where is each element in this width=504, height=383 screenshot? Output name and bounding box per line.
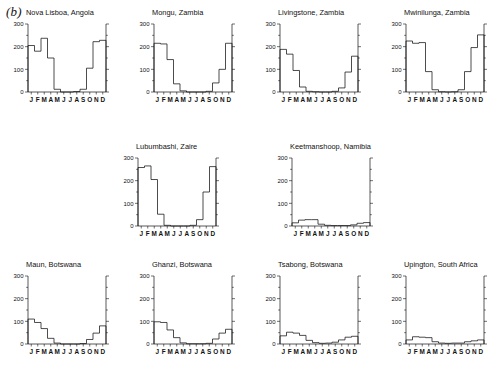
month-tick-label: A [174, 96, 179, 103]
month-tick-label: J [188, 96, 192, 103]
month-tick-label: A [326, 96, 331, 103]
y-axis-tick-label: 100 [391, 67, 402, 73]
chart-plot-area: 0100200300JFMAMJJASOND [2, 18, 114, 110]
rainfall-step-series [292, 220, 370, 226]
rainfall-step-series [138, 166, 216, 226]
month-tick-label: S [459, 348, 464, 355]
y-axis-tick-label: 300 [13, 273, 24, 279]
month-tick-label: J [62, 348, 66, 355]
month-tick-label: A [452, 348, 457, 355]
climatograph-svg: 0100200300JFMAMJJASOND [266, 152, 378, 244]
chart-plot-area: 0100200300JFMAMJJASOND [380, 18, 492, 110]
month-tick-label: J [188, 348, 192, 355]
month-tick-label: J [68, 96, 72, 103]
month-tick-label: D [100, 348, 105, 355]
chart-title: Livingstone, Zambia [278, 8, 378, 17]
month-tick-label: F [36, 96, 40, 103]
y-axis-tick-label: 100 [123, 201, 134, 207]
rainfall-step-series [154, 322, 232, 344]
chart-row-2: Lubumbashi, Zaire 0100200300JFMAMJJASOND… [110, 142, 504, 244]
y-axis-tick-label: 300 [123, 155, 134, 161]
y-axis-tick-label: 300 [391, 21, 402, 27]
y-axis-tick-label: 100 [139, 67, 150, 73]
month-tick-label: S [333, 348, 338, 355]
month-tick-label: J [332, 230, 336, 237]
y-axis-tick-label: 300 [265, 21, 276, 27]
y-axis-tick-label: 100 [139, 319, 150, 325]
month-tick-label: J [407, 348, 411, 355]
chart-panel: Nova Lisboa, Angola 0100200300JFMAMJJASO… [0, 8, 126, 110]
climatograph-svg: 0100200300JFMAMJJASOND [254, 270, 366, 362]
month-tick-label: A [200, 348, 205, 355]
month-tick-label: J [62, 96, 66, 103]
month-tick-label: J [320, 348, 324, 355]
chart-title: Mwinilunga, Zambia [404, 8, 504, 17]
month-tick-label: N [358, 230, 363, 237]
month-tick-label: J [440, 96, 444, 103]
month-tick-label: J [178, 230, 182, 237]
month-tick-label: M [319, 230, 324, 237]
climatograph-svg: 0100200300JFMAMJJASOND [380, 18, 492, 110]
month-tick-label: F [162, 348, 166, 355]
chart-title: Keetmanshoop, Namibia [290, 142, 390, 151]
chart-panel: Mwinilunga, Zambia 0100200300JFMAMJJASON… [378, 8, 504, 110]
month-tick-label: O [213, 348, 218, 355]
month-tick-label: A [48, 348, 53, 355]
chart-panel: Maun, Botswana 0100200300JFMAMJJASOND [0, 260, 126, 362]
month-tick-label: J [139, 230, 143, 237]
month-tick-label: F [414, 96, 418, 103]
month-tick-label: N [220, 348, 225, 355]
y-axis-tick-label: 200 [123, 178, 134, 184]
month-tick-label: A [300, 348, 305, 355]
y-axis-tick-label: 300 [391, 273, 402, 279]
climatograph-svg: 0100200300JFMAMJJASOND [2, 270, 114, 362]
y-axis-tick-label: 200 [13, 44, 24, 50]
chart-panel: Livingstone, Zambia 0100200300JFMAMJJASO… [252, 8, 378, 110]
y-axis-tick-label: 0 [272, 89, 276, 95]
month-tick-label: J [407, 96, 411, 103]
chart-plot-area: 0100200300JFMAMJJASOND [266, 152, 378, 244]
chart-panel: Upington, South Africa 0100200300JFMAMJJ… [378, 260, 504, 362]
month-tick-label: S [459, 96, 464, 103]
month-tick-label: M [307, 96, 312, 103]
chart-plot-area: 0100200300JFMAMJJASOND [128, 270, 240, 362]
month-tick-label: J [440, 348, 444, 355]
month-tick-label: A [174, 348, 179, 355]
y-axis-tick-label: 200 [13, 296, 24, 302]
month-tick-label: D [210, 230, 215, 237]
month-tick-label: S [207, 96, 212, 103]
month-tick-label: A [74, 96, 79, 103]
y-axis-tick-label: 0 [272, 341, 276, 347]
month-tick-label: J [314, 96, 318, 103]
month-tick-label: M [55, 348, 60, 355]
month-tick-label: J [320, 96, 324, 103]
y-axis-tick-label: 200 [265, 44, 276, 50]
month-tick-label: O [213, 96, 218, 103]
month-tick-label: M [294, 96, 299, 103]
month-tick-label: D [100, 96, 105, 103]
month-tick-label: N [472, 348, 477, 355]
month-tick-label: A [312, 230, 317, 237]
month-tick-label: A [48, 96, 53, 103]
month-tick-label: J [155, 348, 159, 355]
y-axis-tick-label: 0 [20, 341, 24, 347]
chart-title: Maun, Botswana [26, 260, 126, 269]
month-tick-label: S [191, 230, 196, 237]
climatograph-svg: 0100200300JFMAMJJASOND [2, 18, 114, 110]
y-axis-tick-label: 0 [398, 89, 402, 95]
month-tick-label: N [204, 230, 209, 237]
month-tick-label: M [294, 348, 299, 355]
chart-title: Ghanzi, Botswana [152, 260, 252, 269]
month-tick-label: A [426, 348, 431, 355]
y-axis-tick-label: 300 [139, 273, 150, 279]
month-tick-label: F [162, 96, 166, 103]
chart-panel: Mongu, Zambia 0100200300JFMAMJJASOND [126, 8, 252, 110]
month-tick-label: M [433, 348, 438, 355]
y-axis-tick-label: 0 [146, 89, 150, 95]
month-tick-label: J [29, 96, 33, 103]
chart-panel: Ghanzi, Botswana 0100200300JFMAMJJASOND [126, 260, 252, 362]
month-tick-label: D [352, 96, 357, 103]
y-axis-tick-label: 200 [391, 44, 402, 50]
chart-plot-area: 0100200300JFMAMJJASOND [112, 152, 224, 244]
rainfall-step-series [154, 43, 232, 92]
